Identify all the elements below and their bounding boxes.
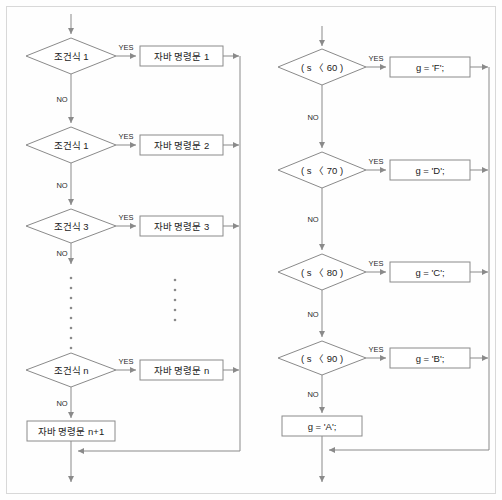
- right-decision-4-label: ( s 〈 90 ): [301, 353, 343, 364]
- flowchart-canvas: 조건식 1 YES 자바 명령문 1 NO 조건식 1 YES 자바 명령문 2…: [0, 0, 502, 500]
- page-frame: [7, 7, 496, 494]
- flowchart-svg: 조건식 1 YES 자바 명령문 1 NO 조건식 1 YES 자바 명령문 2…: [0, 0, 502, 500]
- left-action-2-label: 자바 명령문 2: [154, 140, 210, 151]
- left-chart: 조건식 1 YES 자바 명령문 1 NO 조건식 1 YES 자바 명령문 2…: [26, 14, 240, 482]
- left-decision-3-label: 조건식 3: [54, 221, 89, 232]
- left-decision-1-label: 조건식 1: [54, 51, 89, 62]
- right-action-3-label: g = 'C';: [415, 267, 444, 278]
- left-final-action-label: 자바 명령문 n+1: [38, 426, 104, 437]
- right-yes-label-1: YES: [368, 54, 383, 63]
- right-no-label-4: NO: [307, 390, 318, 399]
- left-yes-label-1: YES: [118, 43, 133, 52]
- right-yes-label-3: YES: [368, 259, 383, 268]
- right-decision-1-label: ( s 〈 60 ): [301, 62, 343, 73]
- left-no-label-1: NO: [56, 95, 67, 104]
- left-decision-n-label: 조건식 n: [54, 365, 89, 376]
- right-chart: ( s 〈 60 ) YES g = 'F'; NO ( s 〈 70 ) YE…: [278, 26, 489, 482]
- right-yes-label-4: YES: [368, 345, 383, 354]
- right-no-label-3: NO: [307, 310, 318, 319]
- left-no-label-n: NO: [56, 399, 67, 408]
- left-yes-label-n: YES: [118, 357, 133, 366]
- right-final-action-label: g = 'A';: [308, 421, 337, 432]
- left-yes-label-2: YES: [118, 132, 133, 141]
- left-no-label-3: NO: [56, 249, 67, 258]
- left-action-n-label: 자바 명령문 n: [154, 365, 210, 376]
- right-no-label-2: NO: [307, 215, 318, 224]
- left-no-label-2: NO: [56, 181, 67, 190]
- right-decision-2-label: ( s 〈 70 ): [301, 165, 343, 176]
- right-decision-3-label: ( s 〈 80 ): [301, 267, 343, 278]
- right-action-2-label: g = 'D';: [415, 165, 444, 176]
- right-no-label-1: NO: [307, 113, 318, 122]
- left-action-1-label: 자바 명령문 1: [154, 51, 210, 62]
- left-ellipsis-action: [174, 279, 177, 322]
- right-action-1-label: g = 'F';: [416, 62, 444, 73]
- left-action-3-label: 자바 명령문 3: [154, 221, 210, 232]
- left-decision-2-label: 조건식 1: [54, 140, 89, 151]
- left-ellipsis-decision: [70, 277, 73, 350]
- right-action-4-label: g = 'B';: [416, 353, 445, 364]
- left-yes-label-3: YES: [118, 213, 133, 222]
- right-yes-label-2: YES: [368, 157, 383, 166]
